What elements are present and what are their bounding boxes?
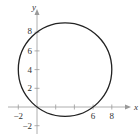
x-axis-arrow-icon	[125, 105, 131, 110]
y-tick-label-2: 2	[28, 83, 33, 93]
circle-graph: −2 6 8 −2 2 4 6 8 x y	[0, 0, 140, 140]
x-tick-label-6: 6	[91, 111, 96, 121]
y-tick-label-6: 6	[28, 46, 33, 56]
x-axis-label: x	[133, 102, 138, 112]
y-tick-label-4: 4	[28, 65, 33, 75]
y-axis-label: y	[31, 2, 36, 12]
circle-curve	[18, 23, 112, 117]
x-tick-label-8: 8	[110, 111, 115, 121]
y-tick-label-8: 8	[28, 26, 33, 36]
y-tick-label-neg2: −2	[22, 121, 32, 131]
x-tick-label-neg2: −2	[14, 111, 24, 121]
